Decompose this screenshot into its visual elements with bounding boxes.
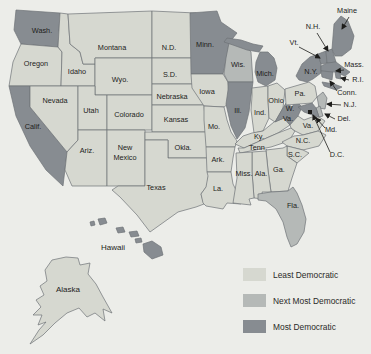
legend-row-most: Most Democratic [243,320,355,333]
leader-arrow-vt [299,47,320,58]
state-label-maryland: Md. [325,125,337,134]
state-label-north-dakota: N.D. [162,43,177,52]
state-label-texas: Texas [146,183,165,192]
dc-marker [308,110,312,114]
legend-row-least: Least Democratic [243,268,355,281]
state-hawaii-island-5 [135,238,142,243]
state-label-nevada: Nevada [42,96,68,105]
state-label-california: Calif. [25,122,42,131]
state-alaska [30,257,112,344]
state-label-indiana: Ind. [254,108,266,117]
state-label-missouri: Mo. [208,122,220,131]
state-label-virginia: Va. [303,121,313,130]
legend-label-least-democratic: Least Democratic [273,270,338,280]
state-label-florida: Fla. [287,201,299,210]
state-label-mississippi: Miss. [235,169,252,178]
state-label-rhode-island: R.I. [352,75,363,84]
state-hawaii-island-3 [116,227,125,233]
state-label-idaho: Idaho [68,67,86,76]
legend-swatch-next-most-democratic [243,294,266,307]
state-label-oregon: Oregon [24,59,48,68]
state-connecticut [321,71,333,80]
state-label-montana: Montana [98,43,127,52]
state-hawaii-island-6 [143,241,163,259]
state-label-dc: D.C. [330,150,345,159]
state-label-kentucky: Ky. [254,132,264,141]
state-label-hawaii: Hawaii [101,243,125,252]
state-label-west-virginia-line1: W. [286,104,295,113]
state-label-vermont: Vt. [290,38,299,47]
state-label-illinois: Ill. [234,106,241,115]
state-label-alabama: Ala. [255,169,268,178]
state-mississippi [233,152,254,205]
state-label-louisiana: La. [213,184,223,193]
state-label-connecticut: Conn. [337,88,356,97]
state-florida [258,187,306,247]
legend-label-most-democratic: Most Democratic [273,322,336,332]
state-label-west-virginia-line2: Va. [283,114,293,123]
state-label-minnesota: Minn. [196,40,214,49]
state-label-arkansas: Ark. [212,155,225,164]
state-label-delaware: Del. [338,114,351,123]
state-label-new-hampshire: N.H. [306,22,321,31]
state-label-kansas: Kansas [164,115,189,124]
state-label-nebraska: Nebraska [156,92,188,101]
state-hawaii-island-1 [90,221,95,226]
state-label-new-jersey: N.J. [344,100,357,109]
state-label-wyoming: Wyo. [112,75,129,84]
state-label-wisconsin: Wis. [231,60,245,69]
state-label-michigan: Mich. [256,69,273,78]
legend-swatch-most-democratic [243,320,266,333]
us-democratic-map-figure: Wash. Oregon Idaho Montana N.D. S.D. Wyo… [0,0,371,354]
state-label-massachusetts: Mass. [344,60,363,69]
state-label-maine: Maine [337,6,357,15]
legend-label-next-most-democratic: Next Most Democratic [273,296,355,306]
state-label-south-dakota: S.D. [163,70,177,79]
legend: Least Democratic Next Most Democratic Mo… [243,268,355,346]
state-label-oklahoma: Okla. [174,143,191,152]
state-label-south-carolina: S.C. [288,150,302,159]
legend-swatch-least-democratic [243,268,266,281]
state-label-new-york: N.Y. [304,67,317,76]
leader-arrow-ri [341,78,349,80]
state-maine [332,16,354,56]
state-rhode-island [335,72,341,79]
state-label-pennsylvania: Pa. [295,89,306,98]
state-label-colorado: Colorado [114,110,144,119]
state-label-georgia: Ga. [273,165,285,174]
state-label-new-mexico-line2: Mexico [113,153,136,162]
leader-arrow-del [325,114,335,119]
leader-arrow-nj [327,104,341,105]
state-label-alaska: Alaska [56,285,81,294]
state-label-washington: Wash. [32,26,52,35]
state-label-arizona: Ariz. [80,146,95,155]
state-hawaii-island-2 [98,218,107,225]
state-label-iowa: Iowa [199,87,215,96]
legend-row-next: Next Most Democratic [243,294,355,307]
state-hawaii-island-4 [129,231,139,237]
state-label-new-mexico-line1: New [118,143,133,152]
leader-arrow-nh [317,33,328,51]
state-label-ohio: Ohio [268,96,283,105]
state-label-tennessee: Tenn. [249,143,267,152]
state-label-north-carolina: N.C. [296,136,311,145]
state-label-utah: Utah [83,106,98,115]
